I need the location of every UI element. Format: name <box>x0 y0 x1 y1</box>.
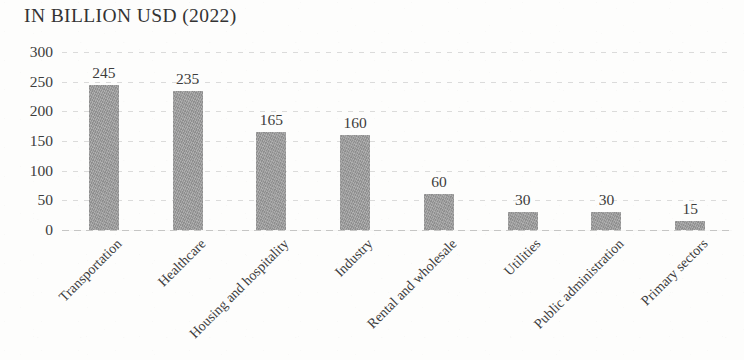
bar-group[interactable]: 30 <box>591 52 621 230</box>
bar-group[interactable]: 235 <box>173 52 203 230</box>
x-axis-label: Healthcare <box>155 236 209 290</box>
x-axis-label: Transportation <box>56 236 125 305</box>
bar[interactable] <box>675 221 705 230</box>
y-axis-tick-label: 0 <box>45 221 53 239</box>
x-axis-label-text: Public administration <box>531 236 627 332</box>
bar[interactable] <box>591 212 621 230</box>
bar-value-label: 235 <box>176 70 199 88</box>
bar-value-label: 245 <box>92 64 115 82</box>
x-axis-label: Utilities <box>501 236 544 279</box>
y-axis-tick-label: 50 <box>38 191 54 209</box>
chart-title: IN BILLION USD (2022) <box>24 5 237 27</box>
bar[interactable] <box>508 212 538 230</box>
bar[interactable] <box>256 132 286 230</box>
gridline <box>62 52 732 53</box>
bar-group[interactable]: 160 <box>340 52 370 230</box>
bar-value-label: 30 <box>599 191 615 209</box>
bar-value-label: 30 <box>515 191 531 209</box>
bar-group[interactable]: 30 <box>508 52 538 230</box>
bar-group[interactable]: 15 <box>675 52 705 230</box>
y-axis-tick-label: 200 <box>30 102 53 120</box>
bar-group[interactable]: 245 <box>89 52 119 230</box>
x-axis-label-text: Utilities <box>501 236 544 279</box>
gridline <box>62 141 732 142</box>
x-axis-label-text: Healthcare <box>155 236 209 290</box>
y-axis-tick-label: 100 <box>30 161 53 179</box>
x-axis-label-text: Rental and wholesale <box>364 236 460 332</box>
y-axis-tick-label: 150 <box>30 132 53 150</box>
bar-group[interactable]: 60 <box>424 52 454 230</box>
bar[interactable] <box>89 85 119 230</box>
bar-value-label: 60 <box>431 173 447 191</box>
plot-area: 300250200150100500 24523516516060303015 <box>62 52 732 230</box>
x-axis-category-labels: TransportationHealthcareHousing and hosp… <box>62 236 732 356</box>
gridline <box>62 111 732 112</box>
gridline <box>62 200 732 201</box>
x-axis-label: Industry <box>332 236 376 280</box>
bar[interactable] <box>173 91 203 230</box>
gridline <box>62 171 732 172</box>
x-axis-label: Rental and wholesale <box>364 236 460 332</box>
bar[interactable] <box>424 194 454 230</box>
bar-value-label: 15 <box>682 200 698 218</box>
gridline <box>62 82 732 83</box>
y-axis-tick-label: 250 <box>30 72 53 90</box>
bar-chart: IN BILLION USD (2022) 300250200150100500… <box>0 0 744 360</box>
bar-value-label: 165 <box>260 111 283 129</box>
x-axis-label: Public administration <box>531 236 627 332</box>
bar-value-label: 160 <box>344 114 367 132</box>
x-axis-label-text: Industry <box>332 236 376 280</box>
axis-baseline <box>62 230 732 231</box>
bar[interactable] <box>340 135 370 230</box>
bar-group[interactable]: 165 <box>256 52 286 230</box>
x-axis-label-text: Primary sectors <box>638 236 711 309</box>
x-axis-label: Primary sectors <box>638 236 711 309</box>
y-axis-tick-label: 300 <box>30 43 53 61</box>
x-axis-label-text: Transportation <box>56 236 125 305</box>
